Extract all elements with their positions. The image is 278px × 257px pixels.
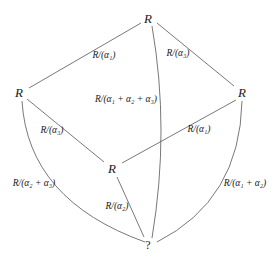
node-bottom-unknown: ?: [145, 239, 150, 251]
label-right-bottom: R/(α₁ + α₂): [224, 179, 267, 189]
label-left-bottom: R/(α₂ + α₃): [13, 179, 56, 189]
label-right-middle: R/(α₁): [187, 125, 210, 135]
edge-right-middle: [122, 100, 236, 163]
node-right: R: [238, 86, 246, 99]
label-left-middle: R/(α₃): [40, 126, 63, 136]
node-left: R: [15, 86, 23, 99]
node-top: R: [144, 12, 152, 25]
edge-top-bottom: [152, 26, 161, 238]
ideal-quotient-diagram: R R R R ? R/(α₁) R/(α₃) R/(α₁ + α₂ + α₃)…: [0, 0, 278, 257]
edge-left-middle: [27, 99, 104, 162]
label-middle-bottom: R/(α₂): [105, 202, 128, 212]
node-middle: R: [108, 162, 116, 175]
label-top-bottom: R/(α₁ + α₂ + α₃): [95, 95, 157, 105]
edge-left-bottom: [22, 101, 145, 242]
label-top-right: R/(α₃): [166, 49, 189, 59]
label-top-left: R/(α₁): [92, 51, 115, 61]
edge-right-bottom: [157, 101, 242, 242]
edge-top-left: [29, 23, 141, 88]
